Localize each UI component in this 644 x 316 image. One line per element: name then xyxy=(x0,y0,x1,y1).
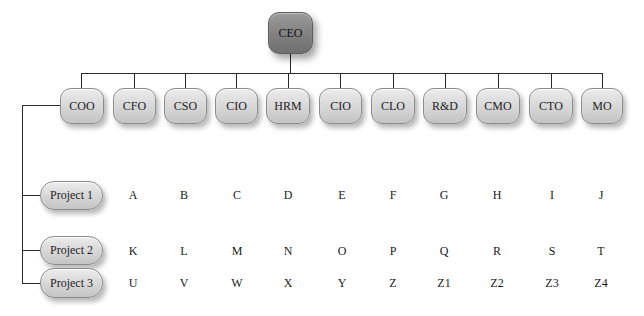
role-label: CIO xyxy=(226,99,247,114)
ceo-node: CEO xyxy=(268,12,313,54)
role-drop-cto xyxy=(551,73,552,88)
role-node-cio-2: CIO xyxy=(319,88,362,124)
role-node-coo: COO xyxy=(60,88,104,124)
role-node-hrm: HRM xyxy=(266,88,310,124)
role-node-cio-1: CIO xyxy=(215,88,258,124)
matrix-cell: Z1 xyxy=(424,276,464,291)
role-drop-cio-2 xyxy=(340,73,341,88)
role-node-rnd: R&D xyxy=(423,88,467,124)
matrix-cell: O xyxy=(322,244,362,259)
project-label: Project 1 xyxy=(50,188,93,203)
role-drop-mo xyxy=(602,73,603,88)
matrix-cell: W xyxy=(217,276,257,291)
matrix-cell: J xyxy=(581,188,621,203)
matrix-cell: Q xyxy=(424,244,464,259)
role-label: R&D xyxy=(432,99,458,114)
role-label: CSO xyxy=(174,99,197,114)
project-3-connector xyxy=(22,283,40,284)
role-drop-clo xyxy=(393,73,394,88)
project-node-3: Project 3 xyxy=(40,268,103,298)
role-drop-rnd xyxy=(445,73,446,88)
matrix-cell: X xyxy=(268,276,308,291)
matrix-cell: N xyxy=(268,244,308,259)
matrix-cell: Z xyxy=(373,276,413,291)
role-drop-hrm xyxy=(288,73,289,88)
role-label: CFO xyxy=(123,99,146,114)
matrix-cell: H xyxy=(477,188,517,203)
matrix-cell: D xyxy=(268,188,308,203)
matrix-cell: U xyxy=(113,276,153,291)
matrix-cell: R xyxy=(477,244,517,259)
matrix-cell: T xyxy=(581,244,621,259)
matrix-cell: G xyxy=(424,188,464,203)
matrix-cell: Z4 xyxy=(581,276,621,291)
matrix-cell: A xyxy=(113,188,153,203)
role-label: CIO xyxy=(330,99,351,114)
role-drop-cmo xyxy=(498,73,499,88)
matrix-cell: B xyxy=(164,188,204,203)
matrix-cell: L xyxy=(164,244,204,259)
project-label: Project 2 xyxy=(50,243,93,258)
matrix-cell: E xyxy=(322,188,362,203)
role-node-clo: CLO xyxy=(371,88,415,124)
role-label: HRM xyxy=(274,99,301,114)
matrix-cell: F xyxy=(373,188,413,203)
matrix-cell: M xyxy=(217,244,257,259)
matrix-cell: Z2 xyxy=(477,276,517,291)
role-node-cfo: CFO xyxy=(113,88,156,124)
role-node-cso: CSO xyxy=(164,88,207,124)
role-node-cmo: CMO xyxy=(476,88,520,124)
role-bus-connector xyxy=(81,73,603,74)
role-node-cto: CTO xyxy=(529,88,573,124)
role-drop-coo xyxy=(81,73,82,88)
matrix-cell: Z3 xyxy=(532,276,572,291)
role-node-mo: MO xyxy=(581,88,623,124)
role-label: CMO xyxy=(484,99,511,114)
project-1-connector xyxy=(22,195,40,196)
matrix-cell: P xyxy=(373,244,413,259)
matrix-cell: C xyxy=(217,188,257,203)
project-label: Project 3 xyxy=(50,276,93,291)
matrix-cell: S xyxy=(532,244,572,259)
role-label: CTO xyxy=(539,99,563,114)
role-drop-cfo xyxy=(134,73,135,88)
role-drop-cso xyxy=(185,73,186,88)
matrix-cell: Y xyxy=(322,276,362,291)
role-label: COO xyxy=(69,99,94,114)
role-drop-cio-1 xyxy=(236,73,237,88)
role-label: CLO xyxy=(381,99,405,114)
matrix-cell: K xyxy=(113,244,153,259)
project-node-2: Project 2 xyxy=(40,236,103,265)
role-label: MO xyxy=(592,99,611,114)
matrix-cell: I xyxy=(532,188,572,203)
ceo-down-connector xyxy=(290,54,291,74)
project-node-1: Project 1 xyxy=(40,181,103,210)
project-2-connector xyxy=(22,250,40,251)
matrix-cell: V xyxy=(164,276,204,291)
coo-side-connector xyxy=(22,105,60,106)
ceo-label: CEO xyxy=(279,26,303,41)
